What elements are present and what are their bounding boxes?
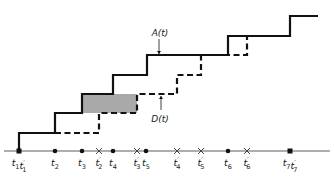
- event-time-label: t′5: [198, 156, 205, 171]
- event-time-label: t1t′1: [12, 157, 27, 174]
- arrival-dot-icon: [80, 149, 85, 154]
- event-time-label: t3: [78, 157, 86, 171]
- arrival-departure-square-icon: [17, 149, 22, 154]
- event-time-label: t7t′7: [283, 157, 298, 174]
- shaded-region: [82, 94, 137, 113]
- arrival-curve-label: A(t): [151, 28, 169, 38]
- arrival-dot-icon: [111, 149, 116, 154]
- curves: [19, 16, 318, 151]
- event-time-label: t2: [51, 157, 59, 171]
- arrival-dot-icon: [226, 149, 231, 154]
- arrival-dot-icon: [53, 149, 58, 154]
- shaded-waiting-area: [82, 94, 137, 113]
- event-time-label: t5: [142, 157, 150, 171]
- event-time-label: t6: [224, 157, 232, 171]
- arrival-departure-square-icon: [288, 149, 293, 154]
- departure-curve-label: D(t): [151, 114, 168, 124]
- event-time-label: t′3: [134, 156, 141, 171]
- arrival-dot-icon: [144, 149, 149, 154]
- event-time-label: t′4: [174, 156, 181, 171]
- event-time-label: t′2: [96, 156, 103, 171]
- event-time-label: t′6: [244, 156, 251, 171]
- arrival-arrow-icon: [157, 39, 161, 54]
- arrival-curve: [19, 16, 318, 151]
- departure-arrow-icon: [159, 96, 163, 110]
- event-time-label: t4: [109, 157, 117, 171]
- queue-step-diagram: A(t) D(t) t1t′1t2t3t′2t4t′3t5t′4t′5t6t′6…: [0, 0, 334, 180]
- diagram-svg: A(t) D(t) t1t′1t2t3t′2t4t′3t5t′4t′5t6t′6…: [0, 0, 334, 180]
